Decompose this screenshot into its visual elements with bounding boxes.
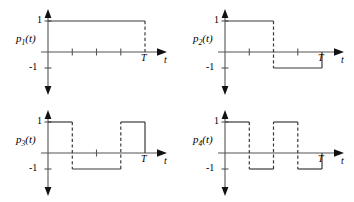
x-axis-p4 bbox=[218, 149, 344, 157]
function-label-p2: p2(t) bbox=[193, 33, 213, 47]
plot-svg-p2 bbox=[177, 0, 354, 101]
x-axis-p1 bbox=[41, 48, 167, 56]
plot-panel-p4: p4(t) 1 -1 T t bbox=[177, 101, 354, 202]
waveform-p3 bbox=[48, 122, 145, 169]
waveform-p4 bbox=[225, 122, 322, 169]
x-axis-p3 bbox=[41, 149, 167, 157]
x-axis-label-p3: t bbox=[164, 156, 167, 166]
x-axis-p2 bbox=[218, 48, 344, 56]
plot-svg-p3 bbox=[0, 101, 177, 202]
walsh-function-figure: p1(t) 1 -1 T t bbox=[0, 0, 354, 202]
plot-panel-p2: p2(t) 1 -1 T t bbox=[177, 0, 354, 101]
plot-panel-p3: p3(t) 1 -1 T t bbox=[0, 101, 177, 202]
x-end-label-p4: T bbox=[318, 154, 324, 164]
x-axis-label-p4: t bbox=[341, 156, 344, 166]
ytick-label-bottom-p2: -1 bbox=[206, 62, 214, 72]
ytick-label-bottom-p1: -1 bbox=[29, 62, 37, 72]
plot-svg-p4 bbox=[177, 101, 354, 202]
x-end-label-p3: T bbox=[141, 154, 147, 164]
ytick-label-top-p4: 1 bbox=[214, 116, 219, 126]
plot-svg-p1 bbox=[0, 0, 177, 101]
plot-panel-p1: p1(t) 1 -1 T t bbox=[0, 0, 177, 101]
ytick-label-top-p3: 1 bbox=[37, 116, 42, 126]
ytick-label-bottom-p4: -1 bbox=[206, 163, 214, 173]
waveform-p1 bbox=[48, 21, 145, 52]
x-end-label-p2: T bbox=[318, 53, 324, 63]
ytick-label-bottom-p3: -1 bbox=[29, 163, 37, 173]
ytick-label-top-p2: 1 bbox=[214, 15, 219, 25]
waveform-p2 bbox=[225, 21, 322, 68]
x-axis-label-p1: t bbox=[164, 55, 167, 65]
x-end-label-p1: T bbox=[141, 53, 147, 63]
ytick-label-top-p1: 1 bbox=[37, 15, 42, 25]
function-label-p1: p1(t) bbox=[16, 33, 36, 47]
function-label-p3: p3(t) bbox=[16, 134, 36, 148]
x-axis-label-p2: t bbox=[341, 55, 344, 65]
function-label-p4: p4(t) bbox=[193, 134, 213, 148]
